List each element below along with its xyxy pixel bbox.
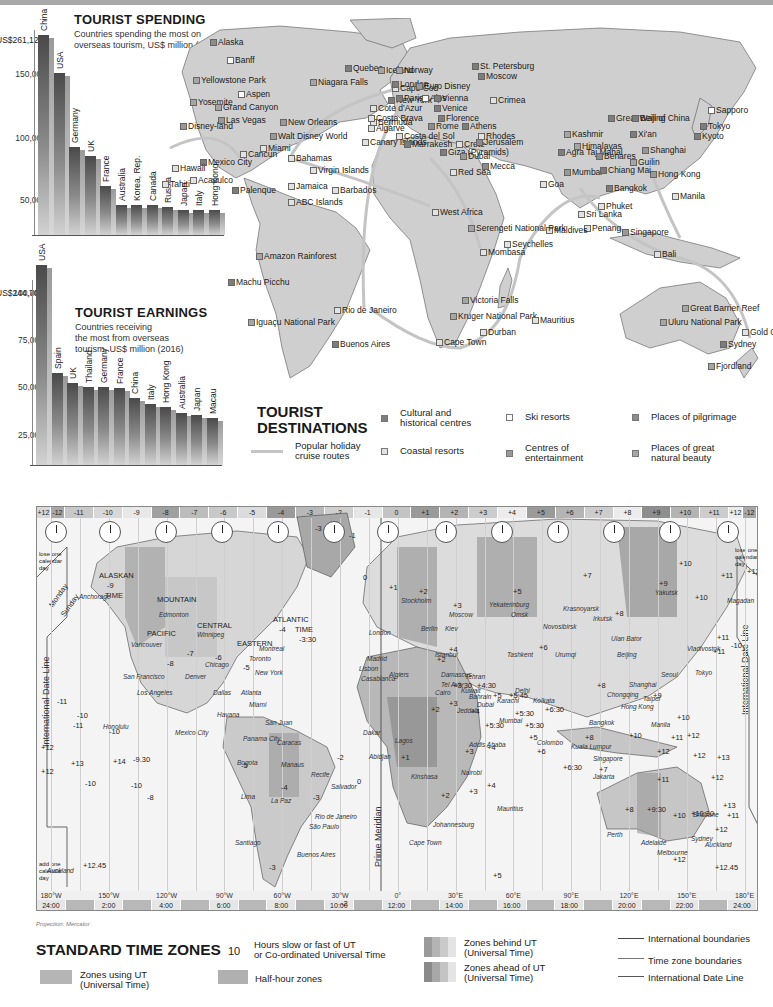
clock-icon — [659, 521, 681, 543]
city-label: Omsk — [511, 611, 528, 618]
city-label: Tehran — [465, 673, 485, 680]
meridian-line — [196, 518, 197, 891]
city-label: Chicago — [205, 661, 229, 668]
city-label: Vladivostok — [687, 645, 720, 652]
city-label: Ulan Bator — [611, 635, 642, 642]
city-label: Vancouver — [131, 641, 162, 648]
place-marker-icon — [654, 251, 661, 258]
tz-offset-label: +2 — [441, 791, 450, 800]
city-label: Buenos Aires — [297, 851, 335, 858]
utc-time-cell — [584, 900, 613, 910]
utc-time-cell — [66, 900, 95, 910]
tz-offset-label: +12 — [711, 773, 724, 782]
utc-time-cell — [469, 900, 498, 910]
place-marker-icon — [193, 77, 200, 84]
city-label: Moscow — [449, 611, 473, 618]
map-place: Chiang Mai — [600, 166, 651, 175]
map-place: Crimea — [490, 96, 525, 105]
city-label: Bogota — [237, 759, 258, 766]
place-marker-icon — [162, 181, 169, 188]
place-marker-icon — [345, 65, 352, 72]
international-date-line-label-left: International Date Line — [41, 656, 51, 747]
tz-boundary-line-swatch — [618, 958, 644, 959]
city-label: Novosibirsk — [543, 623, 577, 630]
longitude-label: 150°E — [677, 892, 696, 899]
utc-time-cell: 10:00 — [325, 900, 354, 910]
tz-offset-label: +11 — [717, 633, 729, 642]
place-name: Bali — [662, 249, 676, 259]
bar — [38, 35, 49, 235]
map-place: Venice — [434, 104, 468, 113]
tourist-destinations-map: AlaskaBanffYellowstone ParkYosemiteAspen… — [160, 18, 773, 398]
city-label: Johannesburg — [433, 821, 474, 828]
tz-offset-label: -5 — [243, 663, 250, 672]
city-label: Cairo — [435, 689, 451, 696]
bar-label: UK — [68, 367, 78, 379]
city-label: Bahrain — [469, 693, 491, 700]
place-name: Walt Disney World — [278, 131, 347, 141]
longitude-label: 120°E — [619, 892, 638, 899]
bar-label: Thailand — [84, 350, 94, 383]
tz-offset-label: -3 — [313, 793, 320, 802]
city-label: Adelaide — [641, 839, 666, 846]
bar-label: Germany — [70, 108, 80, 143]
place-marker-icon — [720, 341, 727, 348]
place-marker-icon — [180, 123, 187, 130]
place-marker-icon — [434, 95, 441, 102]
place-marker-icon — [472, 63, 479, 70]
place-marker-icon — [540, 181, 547, 188]
meridian-line — [658, 518, 659, 891]
tz-offset-label: +13 — [723, 801, 736, 810]
meridian-line — [224, 518, 225, 891]
place-marker-icon — [362, 139, 369, 146]
map-place: Alaska — [210, 38, 244, 47]
longitude-label: 60°W — [274, 892, 291, 899]
place-name: Hawaii — [180, 163, 206, 173]
bar — [98, 387, 109, 465]
place-marker-icon — [682, 305, 689, 312]
place-marker-icon — [404, 141, 411, 148]
map-place: Euro Disney — [416, 82, 470, 91]
map-place: St. Petersburg — [472, 62, 534, 71]
y-axis — [32, 280, 33, 465]
place-name: ABC Islands — [296, 197, 343, 207]
place-name: Great Barrier Reef — [690, 303, 759, 313]
place-marker-icon — [700, 123, 707, 130]
map-place: Shanghai — [642, 146, 686, 155]
place-marker-icon — [378, 67, 385, 74]
tz-offset-label: +12 — [687, 731, 700, 740]
place-marker-icon — [660, 319, 667, 326]
place-name: Jamaica — [296, 181, 328, 191]
map-place: Palenque — [232, 186, 276, 195]
tz-offset-label: +12 — [715, 825, 728, 834]
place-name: Acapulco — [198, 175, 233, 185]
meridian-line — [369, 518, 370, 891]
utc-time-cell: 2:00 — [95, 900, 124, 910]
place-name: Uluru National Park — [668, 317, 742, 327]
tz-offset-label: +12.45 — [83, 861, 106, 870]
place-marker-icon — [396, 67, 403, 74]
place-name: Fjordland — [716, 361, 751, 371]
tz-offset-label: -8 — [167, 659, 174, 668]
legend-coastal-label: Coastal resorts — [400, 446, 464, 456]
place-name: Machu Picchu — [236, 277, 289, 287]
meridian-line — [398, 518, 399, 891]
map-place: Fjordland — [708, 362, 751, 371]
map-place: Kyoto — [694, 132, 724, 141]
zones-using-ut-label: Zones using UT (Universal Time) — [80, 970, 149, 990]
place-name: Crimea — [498, 95, 525, 105]
city-label: Los Angeles — [137, 689, 173, 696]
tz-offset-label: +8 — [625, 805, 634, 814]
place-name: Aspen — [246, 89, 270, 99]
legend-entertainment: Centres of entertainment — [506, 443, 616, 463]
map-place: Barbados — [332, 186, 376, 195]
legend-ski-label: Ski resorts — [525, 412, 570, 422]
standard-time-zones-title: STANDARD TIME ZONES — [36, 941, 221, 959]
city-label: Istanbul — [435, 651, 458, 658]
clock-icon — [491, 521, 513, 543]
city-label: Brisbane — [693, 811, 719, 818]
map-place: Tokyo — [700, 122, 730, 131]
bar — [160, 407, 171, 465]
city-label: Krasnoyarsk — [563, 605, 599, 612]
tz-offset-label: -3 — [315, 524, 322, 533]
